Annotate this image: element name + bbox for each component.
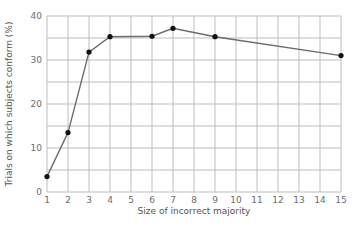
data-point-marker <box>170 26 175 31</box>
y-tick-label: 0 <box>36 187 42 197</box>
x-axis-label: Size of incorrect majority <box>138 206 251 216</box>
data-point-marker <box>107 34 112 39</box>
y-axis-label: Trials on which subjects conform (%) <box>4 22 14 188</box>
y-tick-label: 40 <box>31 11 43 21</box>
x-tick-label: 12 <box>272 195 283 205</box>
grid-lines <box>47 16 341 192</box>
x-tick-label: 5 <box>128 195 134 205</box>
x-tick-label: 6 <box>149 195 155 205</box>
line-chart: 010203040 123456789101112131415 Trials o… <box>0 0 361 230</box>
x-tick-label: 14 <box>314 195 326 205</box>
x-axis-ticks: 123456789101112131415 <box>44 195 347 205</box>
y-tick-label: 30 <box>31 55 43 65</box>
x-tick-label: 15 <box>335 195 346 205</box>
y-tick-label: 20 <box>31 99 43 109</box>
data-point-marker <box>65 130 70 135</box>
data-point-marker <box>86 49 91 54</box>
x-tick-label: 1 <box>44 195 50 205</box>
data-point-marker <box>149 34 154 39</box>
x-tick-label: 7 <box>170 195 176 205</box>
x-tick-label: 2 <box>65 195 71 205</box>
x-tick-label: 13 <box>293 195 304 205</box>
y-axis-ticks: 010203040 <box>31 11 43 197</box>
x-tick-label: 8 <box>191 195 197 205</box>
y-tick-label: 10 <box>31 143 43 153</box>
data-point-marker <box>212 34 217 39</box>
x-tick-label: 9 <box>212 195 218 205</box>
x-tick-label: 4 <box>107 195 113 205</box>
x-tick-label: 10 <box>230 195 242 205</box>
x-tick-label: 11 <box>251 195 262 205</box>
x-tick-label: 3 <box>86 195 92 205</box>
data-point-marker <box>338 53 343 58</box>
data-point-marker <box>44 174 49 179</box>
